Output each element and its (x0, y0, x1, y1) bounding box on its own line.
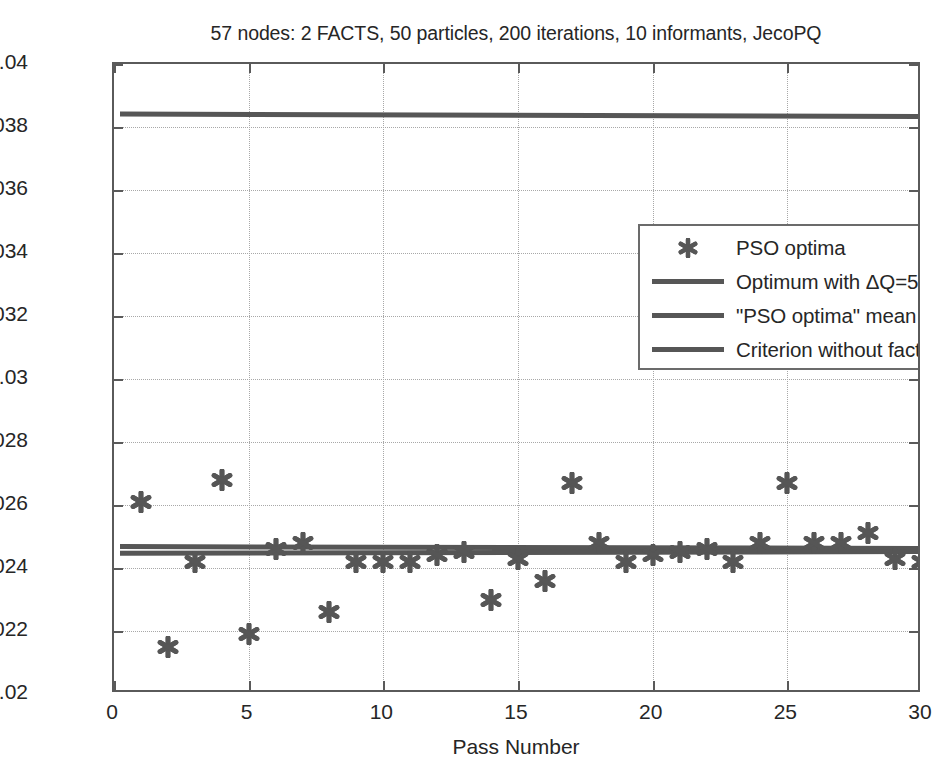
legend-item[interactable]: Criterion without facts (640, 333, 920, 366)
chart-title: 57 nodes: 2 FACTS, 50 particles, 200 ite… (112, 22, 920, 45)
legend-label: Optimum with ΔQ=5MVAR (736, 270, 920, 294)
scatter-point (345, 551, 367, 573)
scatter-point (830, 532, 852, 554)
scatter-point (642, 544, 664, 566)
scatter-point (238, 623, 260, 645)
legend-line-icon (640, 336, 736, 364)
scatter-point (857, 522, 879, 544)
x-tick-label: 30 (908, 700, 931, 724)
x-tick-label: 25 (774, 700, 797, 724)
scatter-point (803, 532, 825, 554)
scatter-point (211, 469, 233, 491)
legend[interactable]: PSO optimaOptimum with ΔQ=5MVAR"PSO opti… (638, 224, 920, 370)
scatter-point (426, 544, 448, 566)
legend-item[interactable]: Optimum with ΔQ=5MVAR (640, 265, 920, 298)
y-tick-label: 0.04 (0, 50, 28, 74)
legend-item[interactable]: PSO optima (640, 231, 920, 264)
scatter-point (696, 538, 718, 560)
plot-area: PSO optimaOptimum with ΔQ=5MVAR"PSO opti… (112, 62, 920, 692)
scatter-point (561, 472, 583, 494)
y-tick-label: 0.02 (0, 680, 28, 704)
legend-label: Criterion without facts (736, 338, 920, 362)
y-tick-label: 0.034 (0, 239, 28, 263)
scatter-point (507, 548, 529, 570)
scatter-point (372, 551, 394, 573)
reference-line (114, 64, 920, 692)
y-tick-label: 0.038 (0, 113, 28, 137)
scatter-point (911, 551, 920, 573)
x-tick-label: 20 (639, 700, 662, 724)
legend-line-swatch (652, 313, 724, 318)
x-tick-label: 0 (106, 700, 118, 724)
scatter-point (669, 541, 691, 563)
x-tick-label: 15 (504, 700, 527, 724)
y-tick-label: 0.028 (0, 428, 28, 452)
y-tick-label: 0.022 (0, 617, 28, 641)
x-tick-label: 10 (370, 700, 393, 724)
scatter-point (130, 491, 152, 513)
scatter-point (615, 551, 637, 573)
legend-label: "PSO optima" mean (736, 304, 916, 328)
figure-canvas: 57 nodes: 2 FACTS, 50 particles, 200 ite… (0, 0, 950, 767)
scatter-point (453, 541, 475, 563)
legend-line-icon (640, 302, 736, 330)
y-tick-label: 0.036 (0, 176, 28, 200)
legend-line-swatch (652, 279, 724, 284)
legend-marker-icon (640, 234, 736, 262)
y-tick-label: 0.032 (0, 302, 28, 326)
scatter-point (265, 538, 287, 560)
legend-label: PSO optima (736, 236, 846, 260)
y-tick-label: 0.03 (0, 365, 28, 389)
scatter-point (749, 532, 771, 554)
scatter-point (722, 551, 744, 573)
scatter-point (480, 589, 502, 611)
scatter-point (776, 472, 798, 494)
legend-line-swatch (652, 347, 724, 352)
y-tick-label: 0.024 (0, 554, 28, 578)
legend-item[interactable]: "PSO optima" mean (640, 299, 920, 332)
legend-line-icon (640, 268, 736, 296)
scatter-point (184, 551, 206, 573)
scatter-point (884, 548, 906, 570)
x-tick-label: 5 (241, 700, 253, 724)
scatter-point (292, 532, 314, 554)
y-tick-label: 0.026 (0, 491, 28, 515)
scatter-point (399, 551, 421, 573)
scatter-point (534, 570, 556, 592)
scatter-point (157, 636, 179, 658)
x-axis-title: Pass Number (112, 735, 920, 759)
scatter-point (318, 601, 340, 623)
scatter-point (588, 532, 610, 554)
